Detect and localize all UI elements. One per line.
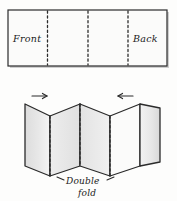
flat-sheet-group: Front Back	[8, 10, 169, 68]
double-fold-caption-line1: Double	[65, 176, 100, 186]
folding-diagram: Front Back	[0, 0, 177, 201]
folded-sheet-group: Double fold	[25, 93, 160, 198]
back-label: Back	[132, 33, 158, 44]
folded-panel-1	[25, 104, 50, 176]
arrow-left-icon	[118, 93, 133, 98]
caption-leader-right	[107, 177, 114, 180]
folded-panel-5	[140, 104, 160, 166]
arrow-right-icon	[32, 93, 47, 98]
folded-panel-2	[50, 104, 80, 176]
double-fold-caption-line2: fold	[77, 188, 96, 198]
caption-leader-left	[57, 177, 64, 180]
front-label: Front	[12, 33, 41, 44]
folded-panel-4	[110, 104, 140, 176]
folded-panel-3	[80, 104, 110, 176]
